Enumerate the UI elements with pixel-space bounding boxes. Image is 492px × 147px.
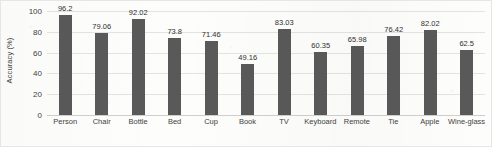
bar xyxy=(387,36,400,115)
bar-value-label: 79.06 xyxy=(92,22,111,31)
bar xyxy=(314,52,327,115)
y-axis-tick-label: 80 xyxy=(33,27,42,36)
bar xyxy=(241,64,254,115)
x-axis-tick-label: Remote xyxy=(339,117,375,126)
bar-value-label: 71.46 xyxy=(202,30,221,39)
plot-area: 96.279.0692.0273.871.4649.1683.0360.3565… xyxy=(47,11,485,115)
bar xyxy=(168,38,181,115)
x-axis-tick-label: Keyboard xyxy=(302,117,338,126)
bar-value-label: 65.98 xyxy=(348,35,367,44)
gridline xyxy=(47,115,485,116)
bar-value-label: 96.2 xyxy=(58,4,73,13)
bar-value-label: 73.8 xyxy=(167,27,182,36)
bar-group: 49.16 xyxy=(230,11,267,115)
bar xyxy=(205,41,218,115)
bar-group: 73.8 xyxy=(157,11,194,115)
bars-layer: 96.279.0692.0273.871.4649.1683.0360.3565… xyxy=(47,11,485,115)
x-axis-tick-label: Person xyxy=(47,117,83,126)
x-axis-tick-label: TV xyxy=(266,117,302,126)
bar-group: 60.35 xyxy=(303,11,340,115)
bar xyxy=(460,50,473,115)
bar xyxy=(424,30,437,115)
bar-group: 92.02 xyxy=(120,11,157,115)
bar xyxy=(351,46,364,115)
bar xyxy=(59,15,72,115)
x-axis-tick-label: Cup xyxy=(193,117,229,126)
y-axis-tick-label: 0 xyxy=(38,111,42,120)
x-axis-tick-label: Wine-glass xyxy=(448,117,485,126)
x-axis-tick-label: Apple xyxy=(412,117,448,126)
x-axis-tick-label: Tie xyxy=(375,117,411,126)
y-axis-title-label: Accuracy (%) xyxy=(6,37,15,83)
y-axis-tick-label: 20 xyxy=(33,90,42,99)
bar xyxy=(132,19,145,115)
accuracy-bar-chart: Accuracy (%) 020406080100 96.279.0692.02… xyxy=(0,0,492,147)
x-axis-tick-label: Bottle xyxy=(120,117,156,126)
bar-group: 79.06 xyxy=(84,11,121,115)
bar-value-label: 92.02 xyxy=(129,8,148,17)
bar-group: 83.03 xyxy=(266,11,303,115)
bar-group: 96.2 xyxy=(47,11,84,115)
y-axis-tick-label: 60 xyxy=(33,48,42,57)
x-axis-tick-label: Chair xyxy=(83,117,119,126)
bar-group: 65.98 xyxy=(339,11,376,115)
bar-value-label: 62.5 xyxy=(459,39,474,48)
x-axis-tick-labels: PersonChairBottleBedCupBookTVKeyboardRem… xyxy=(47,117,485,133)
bar-value-label: 49.16 xyxy=(238,53,257,62)
bar-value-label: 83.03 xyxy=(275,18,294,27)
bar-group: 62.5 xyxy=(449,11,486,115)
y-axis-tick-label: 100 xyxy=(29,7,42,16)
bar xyxy=(95,33,108,115)
bar-value-label: 82.02 xyxy=(421,19,440,28)
y-axis-title: Accuracy (%) xyxy=(1,1,19,119)
bar-value-label: 76.42 xyxy=(384,25,403,34)
bar-value-label: 60.35 xyxy=(311,41,330,50)
bar-group: 76.42 xyxy=(376,11,413,115)
y-axis-tick-label: 40 xyxy=(33,69,42,78)
bar-group: 82.02 xyxy=(412,11,449,115)
x-axis-tick-label: Bed xyxy=(156,117,192,126)
bar xyxy=(278,29,291,115)
y-axis-tick-labels: 020406080100 xyxy=(19,11,45,115)
x-axis-tick-label: Book xyxy=(229,117,265,126)
bar-group: 71.46 xyxy=(193,11,230,115)
